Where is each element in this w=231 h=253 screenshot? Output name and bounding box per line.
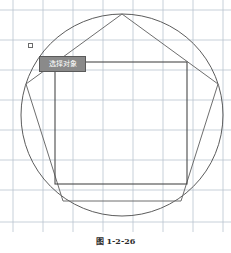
figure-caption: 图 1-2-26 (0, 236, 231, 246)
rectangle-shape[interactable] (55, 62, 187, 184)
figure-screenshot: 选择对象 图 1-2-26 (0, 0, 231, 253)
selection-grip-handle[interactable] (28, 43, 33, 48)
drawing-canvas[interactable] (0, 0, 231, 232)
select-object-tooltip: 选择对象 (39, 56, 86, 72)
grid-lines (0, 0, 231, 232)
select-object-tooltip-label: 选择对象 (49, 60, 77, 68)
geometry-svg (0, 0, 231, 232)
